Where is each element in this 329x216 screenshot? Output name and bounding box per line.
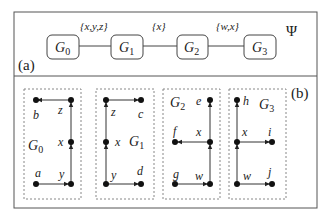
panel-a-label: (a) — [18, 57, 35, 74]
svg-text:x: x — [114, 135, 121, 149]
svg-text:i: i — [268, 125, 271, 139]
panel-b-label: (b) — [291, 85, 309, 102]
svg-text:x: x — [57, 135, 64, 149]
svg-text:f: f — [173, 124, 178, 138]
graph-g1: z c x y d G1 — [96, 89, 154, 199]
svg-text:x: x — [241, 125, 248, 139]
node-g0: G0 — [47, 35, 79, 59]
edge-label-g2-g3: {w,x} — [216, 20, 240, 32]
svg-text:x: x — [195, 125, 202, 139]
node-g3: G3 — [244, 35, 276, 59]
svg-text:h: h — [243, 94, 249, 108]
svg-text:d: d — [137, 164, 144, 178]
svg-text:z: z — [57, 103, 63, 117]
graph-g0: b z x a y G0 — [24, 89, 81, 199]
svg-text:j: j — [266, 165, 272, 179]
diagram: (a) Ψ {x,y,z} {x} {w,x} G0 G1 G2 G3 (b) — [0, 0, 329, 216]
svg-text:G2: G2 — [170, 95, 185, 112]
svg-text:y: y — [110, 168, 117, 182]
psi-symbol: Ψ — [286, 23, 298, 39]
edge-label-g1-g2: {x} — [152, 20, 166, 32]
svg-text:g: g — [173, 167, 179, 181]
svg-text:y: y — [58, 167, 65, 181]
graph-g2: e f x g w G2 — [163, 89, 220, 199]
svg-text:a: a — [35, 166, 41, 180]
svg-text:G1: G1 — [129, 134, 144, 151]
svg-text:w: w — [243, 169, 251, 183]
svg-text:b: b — [33, 108, 39, 122]
panel-b: (b) b z x a y G0 z — [24, 85, 309, 199]
svg-text:z: z — [110, 105, 116, 119]
panel-a: (a) Ψ {x,y,z} {x} {w,x} G0 G1 G2 G3 — [18, 20, 298, 74]
svg-text:c: c — [138, 107, 144, 121]
svg-text:G3: G3 — [259, 97, 274, 114]
node-g2: G2 — [177, 35, 208, 59]
edge-label-g0-g1: {x,y,z} — [80, 20, 108, 32]
svg-text:e: e — [196, 94, 202, 108]
svg-text:G0: G0 — [28, 138, 43, 155]
node-g1: G1 — [111, 35, 143, 59]
graph-g3: h x i w j G3 — [229, 89, 286, 199]
svg-text:w: w — [195, 169, 203, 183]
